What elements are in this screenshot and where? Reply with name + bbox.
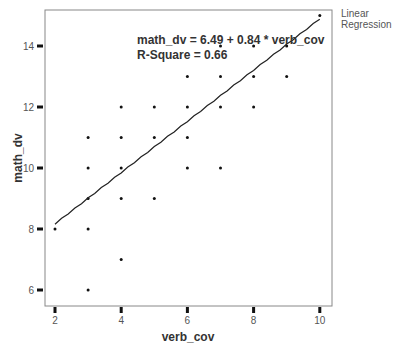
data-point [120, 136, 123, 139]
y-tick-label: 8 [28, 224, 34, 235]
data-point [87, 228, 90, 231]
data-point [54, 228, 57, 231]
data-point [87, 167, 90, 170]
data-point [219, 167, 222, 170]
y-tick-label: 14 [23, 41, 35, 52]
data-point [120, 167, 123, 170]
data-point [87, 289, 90, 292]
x-tick-label: 6 [185, 315, 191, 326]
x-axis-label: verb_cov [162, 330, 215, 344]
x-tick-mark [252, 307, 255, 313]
y-tick-mark [37, 167, 43, 170]
x-tick-label: 10 [314, 315, 326, 326]
x-tick-label: 2 [52, 315, 58, 326]
data-point [153, 136, 156, 139]
y-tick-mark [37, 289, 43, 292]
x-axis: 246810 [52, 307, 326, 326]
y-tick-mark [37, 106, 43, 109]
x-tick-mark [186, 307, 189, 313]
x-tick-label: 4 [118, 315, 124, 326]
data-point [120, 106, 123, 109]
data-point [186, 167, 189, 170]
data-point [252, 106, 255, 109]
y-axis: 68101214 [23, 41, 43, 296]
data-point [120, 197, 123, 200]
x-tick-mark [318, 307, 321, 313]
y-tick-mark [37, 228, 43, 231]
data-point [153, 106, 156, 109]
data-point [120, 258, 123, 261]
data-point [285, 75, 288, 78]
regression-equation: math_dv = 6.49 + 0.84 * verb_cov [137, 33, 325, 47]
scatter-chart: 68101214 246810 math_dv = 6.49 + 0.84 * … [0, 0, 419, 350]
x-tick-mark [120, 307, 123, 313]
data-point [318, 14, 321, 17]
data-point [153, 197, 156, 200]
data-point [186, 106, 189, 109]
r-square-label: R-Square = 0.66 [137, 48, 228, 62]
x-tick-mark [54, 307, 57, 313]
data-point [186, 75, 189, 78]
data-point [252, 75, 255, 78]
data-point [219, 106, 222, 109]
data-point [219, 75, 222, 78]
y-tick-label: 12 [23, 102, 35, 113]
data-point [87, 136, 90, 139]
legend-linear-regression: Linear Regression [341, 8, 419, 30]
data-point [186, 136, 189, 139]
x-tick-label: 8 [251, 315, 257, 326]
y-axis-label: math_dv [11, 133, 25, 183]
y-tick-mark [37, 45, 43, 48]
y-tick-label: 6 [28, 285, 34, 296]
